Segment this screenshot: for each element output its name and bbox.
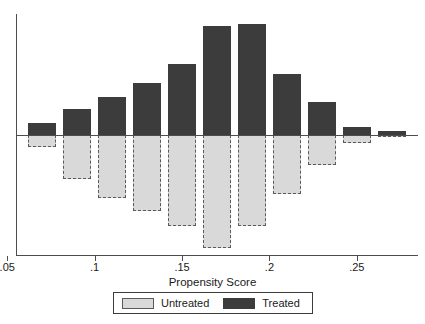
bar-untreated-bin-5 (203, 135, 231, 248)
legend-entry-treated: Treated (223, 293, 300, 313)
x-tick-label-4: .25 (349, 261, 364, 273)
bar-treated-bin-9 (343, 127, 371, 135)
bar-treated-bin-1 (63, 109, 91, 135)
bar-untreated-bin-0 (28, 135, 56, 147)
bar-treated-bin-5 (203, 26, 231, 135)
x-axis-title: Propensity Score (0, 276, 425, 288)
bar-treated-bin-3 (133, 83, 161, 135)
bar-treated-bin-2 (98, 97, 126, 135)
bar-treated-bin-7 (273, 74, 301, 135)
x-tick-label-0: .05 (0, 261, 15, 273)
legend-swatch-treated-icon (223, 298, 255, 309)
bar-untreated-bin-2 (98, 135, 126, 198)
x-tick-label-3: .2 (265, 261, 274, 273)
bar-untreated-bin-8 (308, 135, 336, 165)
chart-legend: Untreated Treated (113, 292, 313, 314)
bar-treated-bin-0 (28, 123, 56, 135)
bar-treated-bin-8 (308, 102, 336, 135)
legend-entry-untreated: Untreated (122, 293, 209, 313)
legend-label-untreated: Untreated (161, 297, 209, 309)
bar-untreated-bin-6 (238, 135, 266, 226)
x-tick-label-2: .15 (174, 261, 189, 273)
propensity-score-histogram-figure: .05.1.15.2.25 Propensity Score Untreated… (0, 0, 425, 324)
bar-untreated-bin-3 (133, 135, 161, 211)
legend-swatch-untreated-icon (122, 298, 154, 309)
bar-untreated-bin-4 (168, 135, 196, 226)
legend-label-treated: Treated (262, 297, 300, 309)
zero-baseline (16, 135, 418, 136)
bar-treated-bin-6 (238, 24, 266, 135)
bar-treated-bin-4 (168, 64, 196, 135)
bar-untreated-bin-7 (273, 135, 301, 194)
bar-untreated-bin-1 (63, 135, 91, 179)
bar-untreated-bin-9 (343, 135, 371, 143)
x-tick-label-1: .1 (90, 261, 99, 273)
